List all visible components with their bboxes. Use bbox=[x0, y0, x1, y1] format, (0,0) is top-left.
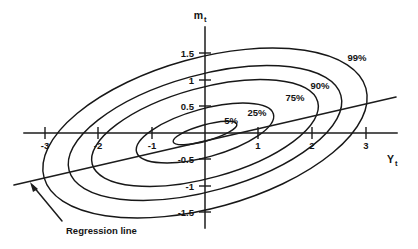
regression-line-annotation-label: Regression line bbox=[66, 225, 137, 236]
y-tick-label-pos1: 1 bbox=[189, 75, 195, 86]
contour-plot-svg: -3 -2 -1 1 2 3 1.5 1 0.5 -0.5 -1 -1.5 5%… bbox=[0, 0, 418, 249]
x-tick-label-neg3: -3 bbox=[41, 140, 49, 151]
contour-label-99: 99% bbox=[347, 52, 367, 63]
contour-label-90: 90% bbox=[310, 80, 330, 91]
regression-annotation-arrow bbox=[30, 182, 62, 221]
annotation-arrow-shaft bbox=[33, 186, 62, 221]
y-tick-label-neg1: -1 bbox=[186, 181, 195, 192]
axes-group bbox=[24, 27, 397, 228]
y-axis-title: m bbox=[194, 9, 203, 21]
x-axis-title: Y bbox=[387, 153, 394, 165]
x-tick-label-pos3: 3 bbox=[363, 140, 368, 151]
y-tick-label-pos1p5: 1.5 bbox=[181, 48, 195, 59]
y-tick-label-neg0p5: -0.5 bbox=[178, 154, 195, 165]
x-axis-title-subscript: t bbox=[395, 159, 398, 168]
y-axis-title-subscript: t bbox=[204, 15, 207, 24]
x-tick-label-neg2: -2 bbox=[94, 140, 102, 151]
y-tick-label-neg1p5: -1.5 bbox=[178, 207, 195, 218]
x-tick-label-pos1: 1 bbox=[255, 140, 261, 151]
figure-root: -3 -2 -1 1 2 3 1.5 1 0.5 -0.5 -1 -1.5 5%… bbox=[0, 0, 418, 249]
contour-label-75: 75% bbox=[285, 92, 305, 103]
x-tick-label-neg1: -1 bbox=[148, 140, 157, 151]
contour-label-5: 5% bbox=[224, 115, 238, 126]
contour-label-25: 25% bbox=[247, 107, 267, 118]
x-tick-label-pos2: 2 bbox=[309, 140, 314, 151]
y-tick-label-pos0p5: 0.5 bbox=[181, 101, 195, 112]
